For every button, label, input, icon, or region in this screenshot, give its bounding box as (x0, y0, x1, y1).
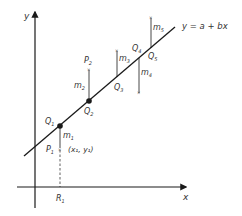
y-axis-label: y (23, 11, 30, 21)
label-p2: P2 (84, 56, 92, 66)
label-q5: Q5 (148, 52, 157, 62)
label-m1: m1 (63, 131, 74, 141)
label-p1: P1 (46, 145, 54, 155)
point-p3-marker: × (115, 48, 118, 54)
x-axis-label: x (182, 192, 189, 202)
point-q2 (86, 98, 92, 104)
label-q1: Q1 (45, 117, 54, 127)
label-m5: m5 (153, 23, 164, 33)
label-q4: Q4 (132, 44, 141, 54)
label-r1: R1 (56, 194, 65, 204)
regression-line-label: y = a + bx (181, 21, 229, 31)
label-m2: m2 (74, 81, 85, 91)
label-m3: m3 (119, 54, 130, 64)
label-q2: Q2 (84, 107, 93, 117)
point-p4-marker: × (137, 90, 140, 96)
point-q1 (57, 123, 63, 129)
label-q3: Q3 (114, 83, 123, 93)
regression-diagram: y x y = a + bx × Q1 m1 P1 (x₁, y₁) R1 × … (0, 0, 242, 216)
point-p2-marker: × (87, 67, 90, 73)
label-coord-p1: (x₁, y₁) (68, 145, 94, 154)
point-p1-marker: × (58, 147, 61, 153)
regression-line (24, 27, 175, 156)
label-m4: m4 (141, 68, 152, 78)
point-p5-marker: × (149, 15, 152, 21)
